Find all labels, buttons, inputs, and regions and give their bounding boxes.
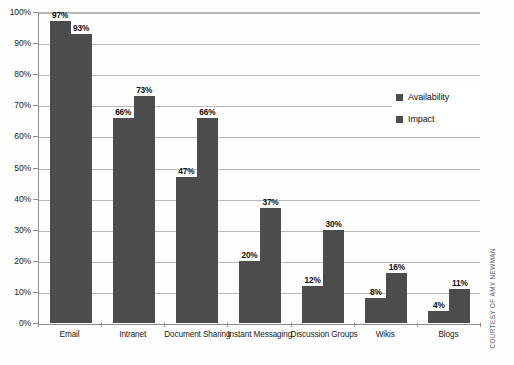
x-axis-tick-mark [164, 323, 165, 327]
bar-group: 47%66% [176, 12, 218, 323]
bar-group: 66%73% [113, 12, 155, 323]
bar-value-label: 11% [445, 278, 474, 288]
chart-legend: Availability Impact [392, 84, 484, 132]
x-axis-category-label: Wikis [354, 330, 417, 339]
bar-availability[interactable] [302, 286, 323, 323]
bar-availability[interactable] [365, 298, 386, 323]
gridline [39, 324, 480, 325]
bar-group: 4%11% [428, 12, 470, 323]
y-axis-tick-label: 30% [0, 225, 31, 235]
x-axis-category-label: Discussion Groups [291, 330, 354, 339]
bar-group: 97%93% [50, 12, 92, 323]
x-axis-tick-mark [354, 323, 355, 327]
bar-availability[interactable] [113, 118, 134, 323]
legend-item-impact[interactable]: Impact [392, 108, 484, 130]
bar-value-label: 30% [319, 219, 348, 229]
bar-value-label: 16% [382, 262, 411, 272]
bar-availability[interactable] [239, 261, 260, 323]
x-axis-tick-mark [291, 323, 292, 327]
bar-availability[interactable] [428, 311, 449, 323]
bar-group: 12%30% [302, 12, 344, 323]
bar-group: 8%16% [365, 12, 407, 323]
legend-swatch-icon [396, 116, 403, 123]
y-axis-tick-label: 50% [0, 163, 31, 173]
legend-label: Impact [408, 114, 434, 124]
plot-area: 97%93%66%73%47%66%20%37%12%30%8%16%4%11% [38, 12, 480, 323]
x-axis-tick-mark [227, 323, 228, 327]
x-axis-category-label: Intranet [101, 330, 164, 339]
bar-value-label: 66% [193, 107, 222, 117]
bar-availability[interactable] [176, 177, 197, 323]
y-axis-tick-label: 40% [0, 194, 31, 204]
y-axis-tick-label: 100% [0, 7, 31, 17]
x-axis-category-label: Instant Messaging [227, 330, 290, 339]
y-axis-tick-label: 20% [0, 256, 31, 266]
bar-impact[interactable] [197, 118, 218, 323]
x-axis-tick-mark [38, 323, 39, 327]
bar-value-label: 97% [46, 10, 75, 20]
y-axis-tick-label: 80% [0, 69, 31, 79]
y-axis-tick-label: 60% [0, 131, 31, 141]
credit-text: COURTESY OF AMY NEWMAN [489, 248, 496, 349]
bar-impact[interactable] [260, 208, 281, 323]
bar-group: 20%37% [239, 12, 281, 323]
bar-impact[interactable] [134, 96, 155, 323]
y-axis-tick-label: 70% [0, 100, 31, 110]
y-axis-tick-label: 0% [0, 318, 31, 328]
legend-item-availability[interactable]: Availability [392, 86, 484, 108]
bar-value-label: 73% [130, 85, 159, 95]
bar-impact[interactable] [386, 273, 407, 323]
x-axis-category-label: Document Sharing [164, 330, 227, 339]
bar-availability[interactable] [50, 21, 71, 323]
y-axis-tick-label: 10% [0, 287, 31, 297]
bar-value-label: 37% [256, 197, 285, 207]
bar-impact[interactable] [449, 289, 470, 323]
x-axis-tick-mark [417, 323, 418, 327]
bar-chart: 0%10%20%30%40%50%60%70%80%90%100% 97%93%… [0, 0, 514, 365]
x-axis-category-label: Blogs [417, 330, 480, 339]
x-axis-category-label: Email [38, 330, 101, 339]
legend-swatch-icon [396, 94, 403, 101]
legend-label: Availability [408, 92, 449, 102]
bar-value-label: 93% [67, 23, 96, 33]
x-axis-tick-mark [101, 323, 102, 327]
bar-impact[interactable] [71, 34, 92, 323]
x-axis-tick-mark [480, 323, 481, 327]
bar-impact[interactable] [323, 230, 344, 323]
y-axis-tick-label: 90% [0, 38, 31, 48]
